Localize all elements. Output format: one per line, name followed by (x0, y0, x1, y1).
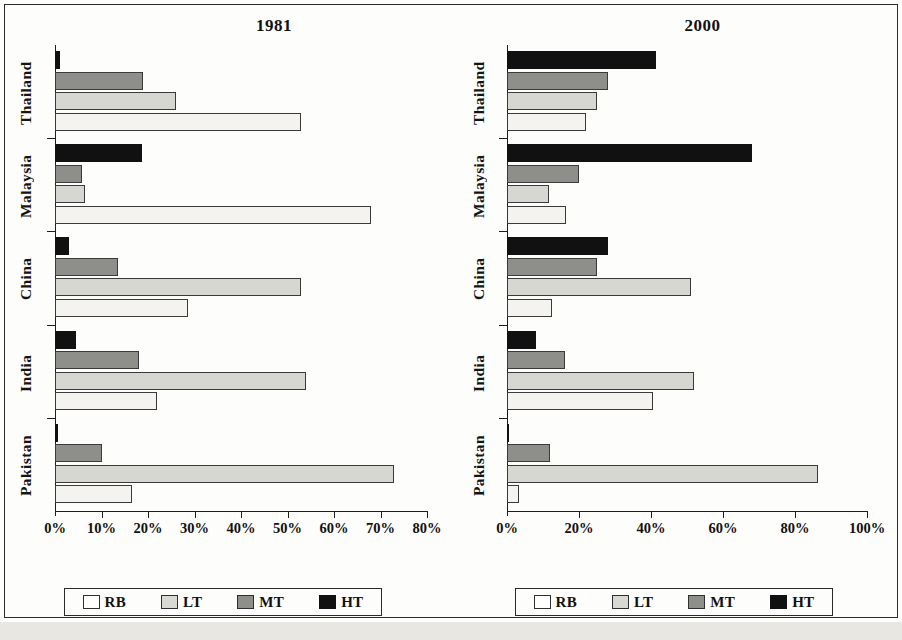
bar-lt-thailand (55, 92, 176, 110)
legend-label-mt: MT (259, 594, 284, 611)
x-axis-tick (195, 511, 196, 518)
bar-mt-thailand (507, 72, 608, 90)
bar-lt-pakistan (507, 465, 818, 483)
x-axis-tick (651, 511, 652, 518)
y-axis-tick (499, 325, 507, 326)
figure-bottom-strip (0, 622, 902, 640)
legend-swatch-rb-icon (534, 595, 551, 609)
legend-item-rb: RB (83, 594, 126, 611)
x-axis-label: 40% (227, 520, 256, 537)
y-axis-tick (47, 138, 55, 139)
x-axis-tick (723, 511, 724, 518)
bar-mt-china (507, 258, 597, 276)
legend-label-lt: LT (634, 594, 653, 611)
legend-swatch-ht-icon (770, 595, 787, 609)
legend-swatch-ht-icon (319, 595, 336, 609)
legend-1981: RB LT MT HT (64, 588, 382, 616)
x-axis-tick (427, 511, 428, 518)
bar-ht-china (507, 237, 608, 255)
x-axis-tick (148, 511, 149, 518)
legend-item-rb: RB (534, 594, 577, 611)
x-axis-tick (579, 511, 580, 518)
legend-label-lt: LT (183, 594, 202, 611)
bar-rb-malaysia (55, 206, 371, 224)
x-axis-tick (334, 511, 335, 518)
x-axis-label: 60% (709, 520, 738, 537)
category-label-malaysia: Malaysia (468, 140, 490, 232)
bar-rb-thailand (55, 113, 301, 131)
bar-ht-malaysia (507, 144, 752, 162)
bar-lt-malaysia (507, 185, 549, 203)
bar-rb-india (507, 392, 653, 410)
category-label-china: China (15, 233, 37, 325)
bar-ht-china (55, 237, 69, 255)
bar-ht-india (507, 331, 536, 349)
legend-label-mt: MT (710, 594, 735, 611)
bar-lt-pakistan (55, 465, 394, 483)
y-axis-tick (47, 325, 55, 326)
bar-mt-china (55, 258, 118, 276)
category-label-india: India (15, 327, 37, 419)
x-axis-2000 (507, 511, 867, 512)
bar-ht-pakistan (507, 424, 509, 442)
category-label-malaysia: Malaysia (15, 140, 37, 232)
x-axis-label: 80% (413, 520, 442, 537)
bar-lt-thailand (507, 92, 597, 110)
legend-item-ht: HT (319, 594, 363, 611)
x-axis-tick (102, 511, 103, 518)
bar-mt-pakistan (55, 444, 102, 462)
bar-rb-malaysia (507, 206, 566, 224)
legend-item-mt: MT (237, 594, 284, 611)
bar-rb-pakistan (507, 485, 519, 503)
bar-ht-india (55, 331, 76, 349)
bar-ht-thailand (55, 51, 60, 69)
y-axis-tick (47, 231, 55, 232)
chart-panel-2000: 2000 RB LT MT HT 0%20%40%60%80%100%Thail… (452, 8, 893, 608)
x-axis-label: 70% (366, 520, 395, 537)
bar-rb-thailand (507, 113, 586, 131)
x-axis-tick (795, 511, 796, 518)
bar-mt-india (507, 351, 565, 369)
bar-mt-thailand (55, 72, 143, 90)
x-axis-label: 20% (565, 520, 594, 537)
x-axis-label: 80% (781, 520, 810, 537)
legend-swatch-lt-icon (161, 595, 178, 609)
legend-item-ht: HT (770, 594, 814, 611)
category-label-pakistan: Pakistan (15, 420, 37, 512)
legend-label-rb: RB (556, 594, 577, 611)
x-axis-tick (381, 511, 382, 518)
bar-mt-india (55, 351, 139, 369)
y-axis-tick (499, 231, 507, 232)
legend-swatch-mt-icon (688, 595, 705, 609)
chart-title-2000: 2000 (452, 16, 893, 36)
x-axis-tick (867, 511, 868, 518)
x-axis-tick (55, 507, 56, 516)
legend-swatch-lt-icon (612, 595, 629, 609)
legend-item-lt: LT (161, 594, 202, 611)
category-label-china: China (468, 233, 490, 325)
x-axis-label: 0% (44, 520, 66, 537)
figure-root: 1981 RB LT MT HT 0%10%20%30%40%50%60%70%… (0, 0, 902, 640)
legend-swatch-mt-icon (237, 595, 254, 609)
legend-swatch-rb-icon (83, 595, 100, 609)
x-axis-tick (507, 507, 508, 516)
legend-label-ht: HT (341, 594, 363, 611)
chart-title-1981: 1981 (6, 16, 447, 36)
category-label-india: India (468, 327, 490, 419)
bar-lt-india (55, 372, 306, 390)
legend-2000: RB LT MT HT (515, 588, 833, 616)
category-label-thailand: Thailand (15, 47, 37, 139)
category-label-thailand: Thailand (468, 47, 490, 139)
x-axis-label: 50% (273, 520, 302, 537)
x-axis-label: 0% (496, 520, 518, 537)
x-axis-label: 60% (320, 520, 349, 537)
legend-item-lt: LT (612, 594, 653, 611)
x-axis-tick (288, 511, 289, 518)
x-axis-tick (241, 511, 242, 518)
bar-rb-china (507, 299, 552, 317)
bar-lt-china (507, 278, 691, 296)
x-axis-label: 100% (849, 520, 885, 537)
x-axis-label: 30% (180, 520, 209, 537)
bar-mt-malaysia (507, 165, 579, 183)
bar-lt-malaysia (55, 185, 85, 203)
